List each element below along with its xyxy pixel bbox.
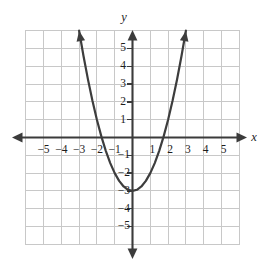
y-tick-label: 5 (120, 41, 126, 53)
x-tick-label: 5 (221, 143, 227, 155)
x-axis-label: x (250, 130, 257, 144)
x-tick-label: 2 (167, 143, 173, 155)
parabola-graph-figure: −5 −4 −3 −2 −1 1 2 3 4 5 5 4 3 2 1 −1 −2… (0, 0, 272, 266)
x-tick-label: −3 (73, 143, 85, 155)
x-tick-label: 4 (203, 143, 209, 155)
x-tick-label: 3 (185, 143, 191, 155)
y-tick-label: −2 (118, 166, 130, 178)
curve-arrow-left (77, 31, 85, 42)
x-axis-arrow-right (237, 133, 248, 143)
y-tick-label: 3 (120, 77, 126, 89)
y-tick-label: −4 (118, 202, 130, 214)
y-axis-arrow-down (128, 249, 138, 260)
y-axis-arrow-up (128, 30, 138, 41)
y-axis-tick-labels: 5 4 3 2 1 −1 −2 −3 −4 −5 (118, 41, 130, 231)
x-axis-arrow-left (12, 133, 23, 143)
y-tick-label: −1 (118, 148, 130, 160)
y-tick-label: 2 (120, 95, 126, 107)
y-tick-label: 4 (120, 59, 126, 71)
y-axis-label: y (119, 10, 127, 24)
y-tick-label: 1 (120, 113, 126, 125)
x-tick-label: −5 (37, 143, 49, 155)
x-tick-label: 1 (149, 143, 155, 155)
x-tick-label: −2 (91, 143, 103, 155)
x-axis (12, 133, 247, 143)
coordinate-plane-svg: −5 −4 −3 −2 −1 1 2 3 4 5 5 4 3 2 1 −1 −2… (0, 0, 272, 266)
x-tick-label: −4 (55, 143, 67, 155)
y-tick-label: −5 (118, 219, 130, 231)
curve-arrow-right (180, 31, 188, 42)
